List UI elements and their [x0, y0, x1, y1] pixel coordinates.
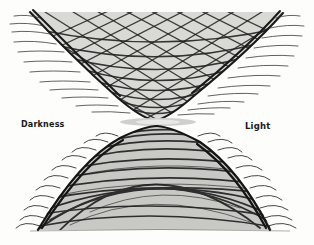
- figure-canvas: Darkness Light: [0, 0, 314, 245]
- darkness-label: Darkness: [21, 120, 65, 129]
- light-label: Light: [245, 121, 271, 131]
- waist: [120, 118, 196, 126]
